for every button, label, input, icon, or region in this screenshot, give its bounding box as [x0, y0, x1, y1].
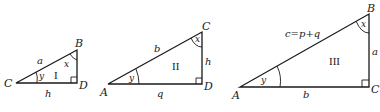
label-vertex-B: B — [366, 2, 375, 15]
label-vertex-B: B — [74, 37, 83, 50]
triangle-3: B A C c=p+q b a x y III — [231, 2, 380, 102]
label-side-a: a — [37, 55, 43, 66]
label-vertex-C: C — [202, 20, 211, 33]
label-angle-y: y — [128, 73, 135, 83]
label-triangle-numeral: I — [54, 69, 58, 81]
label-side-q: q — [157, 88, 163, 99]
triangle-2: C A D b q h x y II — [99, 20, 213, 99]
label-side-h: h — [205, 56, 211, 67]
label-vertex-A: A — [99, 86, 108, 99]
triangle-3-angle-y-arc — [277, 66, 281, 87]
triangle-1-right-angle-marker — [71, 77, 77, 83]
triangle-3-outline — [240, 14, 369, 87]
label-side-a: a — [372, 46, 378, 57]
triangle-2-right-angle-marker — [196, 78, 202, 84]
label-side-h: h — [45, 88, 51, 99]
triangle-1-angle-y-arc — [36, 72, 37, 83]
label-vertex-C: C — [371, 83, 380, 96]
label-angle-x: x — [64, 59, 69, 69]
label-side-b: b — [303, 89, 309, 100]
label-angle-y: y — [38, 71, 45, 81]
label-angle-x: x — [361, 19, 366, 29]
similar-triangles-diagram: B C D a h x y I C A D b q h x y II B A C… — [0, 0, 380, 112]
triangle-2-angle-y-arc — [136, 69, 139, 84]
label-vertex-D: D — [78, 79, 88, 92]
label-side-c-equals-p-plus-q: c=p+q — [285, 28, 320, 39]
label-angle-y: y — [260, 75, 267, 85]
triangle-1: B C D a h x y I — [4, 37, 88, 99]
label-vertex-A: A — [231, 89, 240, 102]
label-angle-x: x — [195, 34, 200, 44]
triangle-2-outline — [108, 32, 202, 84]
triangle-3-right-angle-marker — [362, 80, 369, 87]
label-side-b: b — [154, 43, 160, 54]
label-vertex-D: D — [203, 80, 213, 93]
label-triangle-numeral: III — [329, 55, 340, 67]
label-vertex-C: C — [4, 77, 13, 90]
label-triangle-numeral: II — [172, 60, 180, 72]
triangle-1-angle-x-arc — [70, 54, 77, 60]
